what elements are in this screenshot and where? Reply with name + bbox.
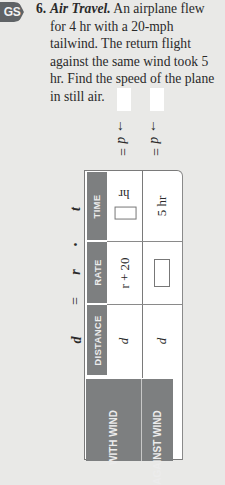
- cell-with-wind-distance: d: [107, 305, 142, 377]
- answer-label-with-wind: → d =: [114, 119, 130, 156]
- answer-input-with-wind[interactable]: [117, 88, 131, 111]
- guided-solution-badge: GS: [0, 2, 24, 22]
- row-header-with-wind: WITH WIND: [86, 379, 141, 461]
- distance-rate-time-table: TIME RATE DISTANCE hr r + 20 d 5 hr d WI…: [84, 170, 183, 460]
- time-input-with-wind[interactable]: [115, 207, 137, 220]
- header-time: TIME: [87, 172, 107, 240]
- cell-with-wind-time: hr: [107, 172, 142, 240]
- answer-input-against-wind[interactable]: [150, 88, 164, 111]
- row-header-against-wind: AGAINST WIND: [142, 379, 173, 461]
- problem-title: Air Travel.: [50, 1, 111, 16]
- cell-against-wind-rate: [143, 242, 181, 304]
- answer-label-against-wind: → d =: [147, 119, 163, 156]
- cell-against-wind-distance: d: [143, 305, 181, 377]
- rate-input-against-wind[interactable]: [154, 259, 170, 287]
- header-rate: RATE: [87, 242, 107, 303]
- cell-against-wind-time: 5 hr: [143, 172, 181, 240]
- problem-number: 6.: [36, 0, 46, 18]
- cell-with-wind-rate: r + 20: [107, 242, 142, 304]
- problem-text: An airplane flew for 4 hr with a 20-mph …: [50, 1, 214, 104]
- header-distance: DISTANCE: [87, 305, 107, 375]
